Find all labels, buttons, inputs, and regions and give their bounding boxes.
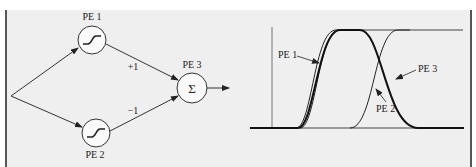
weight-minus-one: −1 bbox=[128, 105, 139, 116]
network-diagram: PE 1 PE 2 Σ PE 3 +1 −1 bbox=[11, 11, 229, 160]
pe3-curve bbox=[250, 30, 464, 128]
edge-pe1-pe3 bbox=[106, 44, 178, 80]
pe3-label: PE 3 bbox=[182, 59, 201, 70]
sigma-icon: Σ bbox=[188, 81, 196, 96]
edge-input-pe2 bbox=[11, 96, 82, 127]
plot-label-pe1: PE 1 bbox=[278, 49, 297, 60]
edge-input-pe1 bbox=[11, 48, 78, 96]
node-pe3: Σ PE 3 bbox=[177, 59, 207, 103]
pe1-curve-a bbox=[296, 30, 350, 128]
pe2-label: PE 2 bbox=[85, 149, 104, 160]
edge-pe2-pe3 bbox=[110, 96, 178, 131]
node-pe2: PE 2 bbox=[82, 119, 110, 160]
plot-label-pe3: PE 3 bbox=[418, 63, 437, 74]
pe3-leader-arrow bbox=[396, 70, 416, 79]
pe1-label: PE 1 bbox=[82, 11, 101, 22]
pe2-leader-arrow bbox=[376, 89, 386, 102]
pe1-leader-arrow bbox=[297, 56, 319, 63]
figure-canvas: PE 1 PE 2 Σ PE 3 +1 −1 PE 1 PE 3 bbox=[0, 0, 476, 167]
plot-label-pe2: PE 2 bbox=[376, 103, 395, 114]
response-plot: PE 1 PE 3 PE 2 bbox=[250, 27, 464, 128]
weight-plus-one: +1 bbox=[128, 61, 139, 72]
node-pe1: PE 1 bbox=[78, 11, 106, 54]
